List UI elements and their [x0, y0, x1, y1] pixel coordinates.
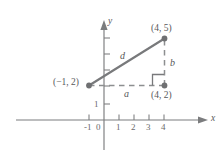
y-axis-arrowhead: [100, 20, 107, 30]
x-tick-label-neg1: -1: [84, 123, 92, 132]
segment-label-b: b: [170, 58, 175, 68]
point-label-4-5: (4, 5): [151, 24, 172, 34]
hypotenuse-segment: [89, 39, 165, 86]
point-dot-neg1-2: [86, 83, 92, 89]
x-axis-label: x: [211, 114, 215, 124]
x-tick-label-1: 1: [116, 123, 121, 132]
x-tick-label-0: 0: [96, 123, 101, 132]
x-tick-label-2: 2: [131, 123, 136, 132]
x-tick-label-4: 4: [161, 123, 166, 132]
point-label-4-2: (4, 2): [151, 91, 172, 101]
point-dot-4-5: [162, 36, 168, 42]
point-label-neg1-2: (−1, 2): [53, 78, 79, 88]
segment-label-d: d: [120, 51, 125, 61]
point-dot-4-2: [162, 83, 168, 89]
y-tick-label-1: 1: [94, 100, 99, 109]
coordinate-plane-figure: y x -1 0 1 2 3 4 1 (4, 5) (−1, 2) (4, 2)…: [0, 0, 221, 163]
segment-label-a: a: [124, 89, 129, 99]
x-tick-label-3: 3: [146, 123, 151, 132]
x-axis-arrowhead: [198, 116, 208, 123]
y-axis-label: y: [108, 17, 112, 27]
